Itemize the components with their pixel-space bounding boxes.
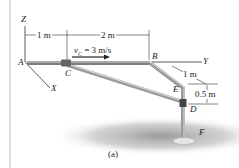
x-axis (25, 62, 50, 88)
point-d-label: D (190, 105, 197, 114)
collar-d (180, 99, 187, 107)
point-b-label: B (152, 52, 158, 61)
collar-c (61, 60, 71, 67)
base-f (173, 138, 195, 145)
figure-caption: (a) (108, 150, 118, 159)
dim-ac-label: 1 m (36, 31, 52, 40)
z-axis-label: Z (21, 15, 26, 24)
point-f-label: F (199, 128, 205, 137)
dim-ed-label: 0.5 m (195, 90, 216, 99)
velocity-label: vC = 3 m/s (74, 46, 111, 57)
diagram-graphics (0, 0, 239, 168)
mechanism-diagram: Z A 1 m 2 m vC = 3 m/s C X B Y 1 m E 0.5… (0, 0, 239, 168)
ground-shadow (50, 116, 239, 156)
dim-cb-label: 2 m (100, 31, 116, 40)
point-a-label: A (18, 58, 24, 67)
x-axis-label: X (51, 84, 57, 93)
dim-bd-label: 1 m (183, 70, 197, 79)
point-c-label: C (65, 69, 71, 78)
point-e-label: E (173, 85, 179, 94)
y-axis-label: Y (203, 57, 208, 66)
